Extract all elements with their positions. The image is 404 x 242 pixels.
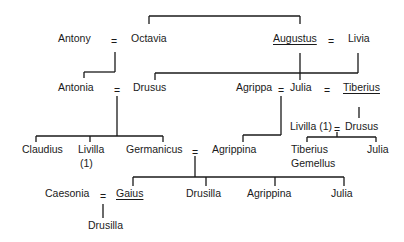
person-julia-younger: Julia: [331, 187, 353, 199]
marriage-symbol: =: [100, 190, 106, 202]
person-caesonia: Caesonia: [45, 187, 89, 199]
person-tiberius-gemellus-line2: Gemellus: [291, 157, 335, 169]
marriage-symbol: =: [278, 84, 284, 96]
person-julia-livilla-daughter: Julia: [367, 143, 389, 155]
person-julia-elder: Julia: [290, 81, 312, 93]
person-antonia: Antonia: [58, 81, 94, 93]
person-agrippa: Agrippa: [236, 81, 272, 93]
person-drusus-elder: Drusus: [133, 81, 166, 93]
person-livilla-1: Livilla (1): [290, 120, 332, 132]
marriage-symbol: =: [334, 123, 340, 135]
person-drusus-younger: Drusus: [345, 120, 378, 132]
person-augustus: Augustus: [273, 32, 317, 44]
person-drusilla-daughter: Drusilla: [88, 219, 123, 231]
marriage-symbol: =: [192, 146, 198, 158]
person-agrippina-younger: Agrippina: [247, 187, 291, 199]
person-livia: Livia: [348, 32, 370, 44]
person-drusilla: Drusilla: [186, 187, 221, 199]
marriage-symbol: =: [111, 35, 117, 47]
person-livilla-note: (1): [80, 157, 93, 169]
marriage-symbol: =: [324, 84, 330, 96]
person-livilla: Livilla: [78, 143, 104, 155]
marriage-symbol: =: [114, 84, 120, 96]
person-tiberius: Tiberius: [343, 81, 380, 93]
marriage-symbol: =: [328, 35, 334, 47]
person-tiberius-gemellus: Tiberius: [291, 143, 328, 155]
person-agrippina-elder: Agrippina: [212, 143, 256, 155]
person-gaius: Gaius: [116, 187, 143, 199]
person-octavia: Octavia: [131, 32, 167, 44]
person-germanicus: Germanicus: [126, 143, 183, 155]
person-claudius: Claudius: [22, 143, 63, 155]
person-antony: Antony: [58, 32, 91, 44]
